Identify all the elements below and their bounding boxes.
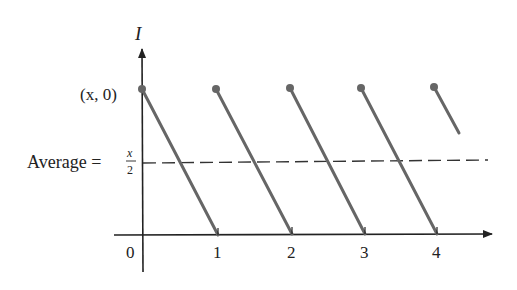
average-fraction-denominator: 2 [127, 163, 133, 177]
x-tick-1: 1 [213, 243, 222, 262]
average-fraction-numerator: x [126, 146, 133, 160]
top-level-label: (x, 0) [80, 85, 117, 104]
y-axis [142, 49, 143, 272]
x-tick-3: 3 [360, 243, 369, 262]
x-axis [114, 234, 492, 235]
diagram-canvas: I (x, 0) Average = x 2 0 1 2 3 4 [0, 0, 517, 290]
sawtooth-diagram: I (x, 0) Average = x 2 0 1 2 3 4 [0, 0, 517, 290]
x-tick-2: 2 [287, 243, 296, 262]
x-tick-0: 0 [126, 243, 135, 262]
average-dashed-line [143, 160, 488, 163]
y-axis-label: I [134, 23, 143, 44]
x-tick-4: 4 [432, 243, 441, 262]
average-label: Average = [27, 152, 101, 172]
peak-dots [138, 83, 438, 93]
